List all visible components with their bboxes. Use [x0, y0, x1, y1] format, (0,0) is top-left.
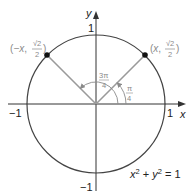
- arc-pi-over-4: [117, 83, 126, 104]
- angle-3pi-over-4-label: 3π 4: [99, 71, 109, 90]
- svg-text:4: 4: [102, 81, 106, 90]
- svg-text:2: 2: [35, 50, 39, 59]
- x-axis-arrow-icon: [178, 101, 186, 107]
- point-left-label: (−x, √2 2 ): [10, 39, 46, 59]
- svg-text:4: 4: [127, 94, 131, 103]
- svg-text:2: 2: [168, 50, 172, 59]
- angle-pi-over-4-label: π 4: [126, 84, 133, 103]
- circle-equation: x2 + y2 = 1: [129, 167, 181, 180]
- x-axis-label: x: [179, 108, 186, 120]
- svg-text:(−x,: (−x,: [10, 43, 27, 54]
- svg-text:): ): [43, 43, 46, 54]
- point-right-dot: [142, 52, 148, 58]
- svg-text:x2 + y2 = 1: x2 + y2 = 1: [129, 167, 181, 180]
- svg-text:(x,: (x,: [150, 43, 161, 54]
- y-axis-arrow-icon: [93, 11, 99, 19]
- tick-y-neg: −1: [80, 181, 93, 193]
- svg-text:√2: √2: [33, 39, 41, 48]
- tick-x-neg: −1: [9, 107, 22, 119]
- tick-x-pos: 1: [167, 107, 173, 119]
- svg-text:): ): [176, 43, 179, 54]
- point-right-label: (x, √2 2 ): [150, 39, 179, 59]
- radius-3pi-over-4: [47, 55, 96, 104]
- svg-text:3π: 3π: [99, 71, 108, 80]
- svg-text:π: π: [127, 84, 132, 93]
- tick-y-pos: 1: [88, 22, 94, 34]
- y-axis-label: y: [85, 7, 93, 19]
- svg-text:√2: √2: [166, 39, 174, 48]
- unit-circle-diagram: y x 1 1 −1 −1 (x, √2 2 ) (−x, √2 2 ) 3π …: [0, 0, 192, 193]
